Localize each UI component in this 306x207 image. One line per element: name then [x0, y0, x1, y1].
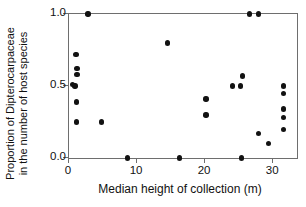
- data-point: [203, 112, 208, 117]
- y-tick-label: 0.5: [26, 79, 66, 91]
- data-point: [85, 11, 90, 16]
- y-axis-title: Proportion of Dipterocarpaceae in the nu…: [0, 0, 34, 207]
- data-point: [238, 83, 243, 88]
- data-point: [230, 83, 235, 88]
- data-point: [177, 155, 182, 160]
- y-axis-title-line-1: Proportion of Dipterocarpaceae: [4, 27, 17, 180]
- data-point: [256, 11, 261, 16]
- scatter-plot-figure: Proportion of Dipterocarpaceae in the nu…: [0, 0, 306, 207]
- x-tick-mark: [272, 158, 273, 163]
- data-point: [74, 72, 79, 77]
- data-point: [281, 83, 286, 88]
- data-point: [72, 83, 77, 88]
- data-point: [240, 73, 245, 78]
- data-point: [73, 52, 78, 57]
- data-point: [281, 106, 286, 111]
- data-point: [239, 155, 244, 160]
- x-axis-title: Median height of collection (m): [55, 182, 305, 196]
- data-point: [125, 155, 130, 160]
- data-point: [74, 119, 79, 124]
- x-tick-mark: [68, 158, 69, 163]
- data-point: [281, 115, 286, 120]
- x-tick-label: 10: [116, 164, 156, 176]
- x-tick-label: 20: [184, 164, 224, 176]
- data-point: [74, 99, 79, 104]
- x-tick-label: 0: [48, 164, 88, 176]
- data-point: [99, 119, 104, 124]
- data-point: [203, 96, 208, 101]
- y-tick-label: 0.0: [26, 151, 66, 163]
- x-tick-mark: [204, 158, 205, 163]
- data-point: [281, 91, 286, 96]
- x-tick-mark: [136, 158, 137, 163]
- data-point: [281, 127, 286, 132]
- data-point: [74, 66, 79, 71]
- data-point: [256, 131, 261, 136]
- data-point: [266, 141, 271, 146]
- x-tick-label: 30: [252, 164, 292, 176]
- data-point: [247, 11, 252, 16]
- plot-area: [68, 13, 298, 159]
- data-point: [165, 40, 170, 45]
- y-tick-label: 1.0: [26, 7, 66, 19]
